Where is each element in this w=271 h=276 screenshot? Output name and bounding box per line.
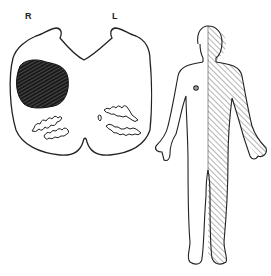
left-tract-small <box>98 115 101 121</box>
left-tract-upper <box>104 106 138 122</box>
lesion-area <box>17 60 69 108</box>
body-figure <box>155 26 266 264</box>
body-outline <box>155 62 208 264</box>
right-tract-lower <box>44 128 69 139</box>
spinal-cord-right-edge <box>150 60 152 130</box>
left-tract-lower <box>106 124 141 135</box>
spinal-cord-top-notch <box>57 28 150 60</box>
spinal-cord-section <box>10 28 151 155</box>
